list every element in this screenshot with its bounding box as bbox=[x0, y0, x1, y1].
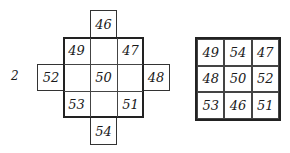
square-cell: 53 bbox=[197, 92, 224, 119]
cell-bottom: 54 bbox=[90, 117, 117, 145]
cell-left: 52 bbox=[37, 64, 65, 91]
cell-top: 46 bbox=[90, 10, 117, 38]
figure-label: 2 bbox=[11, 69, 19, 83]
cell-inner: 53 bbox=[63, 91, 90, 118]
magic-square: 49 54 47 48 50 52 53 46 51 bbox=[195, 37, 281, 121]
square-cell: 52 bbox=[252, 66, 279, 93]
cell-inner: 49 bbox=[63, 37, 90, 64]
square-cell: 50 bbox=[224, 66, 251, 93]
cell-right: 48 bbox=[142, 64, 170, 91]
square-cell: 48 bbox=[197, 66, 224, 93]
cell-inner: 50 bbox=[90, 64, 117, 91]
cell-inner: 47 bbox=[117, 37, 144, 64]
square-cell: 49 bbox=[197, 39, 224, 66]
square-cell: 51 bbox=[252, 92, 279, 119]
square-cell: 46 bbox=[224, 92, 251, 119]
cell-inner: 51 bbox=[117, 91, 144, 118]
square-cell: 47 bbox=[252, 39, 279, 66]
square-cell: 54 bbox=[224, 39, 251, 66]
